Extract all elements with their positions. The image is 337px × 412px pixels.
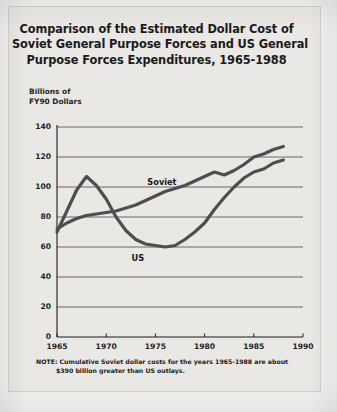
y-tick-label: 20 [25, 302, 51, 311]
y-tick-label: 60 [25, 242, 51, 251]
y-tick-label: 40 [25, 272, 51, 281]
y-tick-label: 0 [25, 332, 51, 341]
figure-note: NOTE: Cumulative Soviet dollar costs for… [36, 357, 302, 376]
y-tick-label: 80 [25, 212, 51, 221]
series-label-soviet: Soviet [147, 177, 176, 187]
y-tick-label: 140 [25, 122, 51, 131]
x-tick-label: 1975 [138, 342, 172, 351]
x-tick-label: 1970 [89, 342, 123, 351]
series-label-us: US [132, 253, 145, 263]
series-lines [57, 147, 283, 248]
x-tick-label: 1985 [237, 342, 271, 351]
x-tick-label: 1990 [286, 342, 320, 351]
y-tick-label: 100 [25, 182, 51, 191]
note-line-1: NOTE: Cumulative Soviet dollar costs for… [36, 357, 302, 366]
figure-page: Comparison of the Estimated Dollar Cost … [0, 0, 337, 412]
x-tick-label: 1980 [188, 342, 222, 351]
x-tick-label: 1965 [40, 342, 74, 351]
y-tick-label: 120 [25, 152, 51, 161]
series-line-us [57, 160, 283, 247]
note-line-2: $390 billion greater than US outlays. [36, 366, 302, 375]
